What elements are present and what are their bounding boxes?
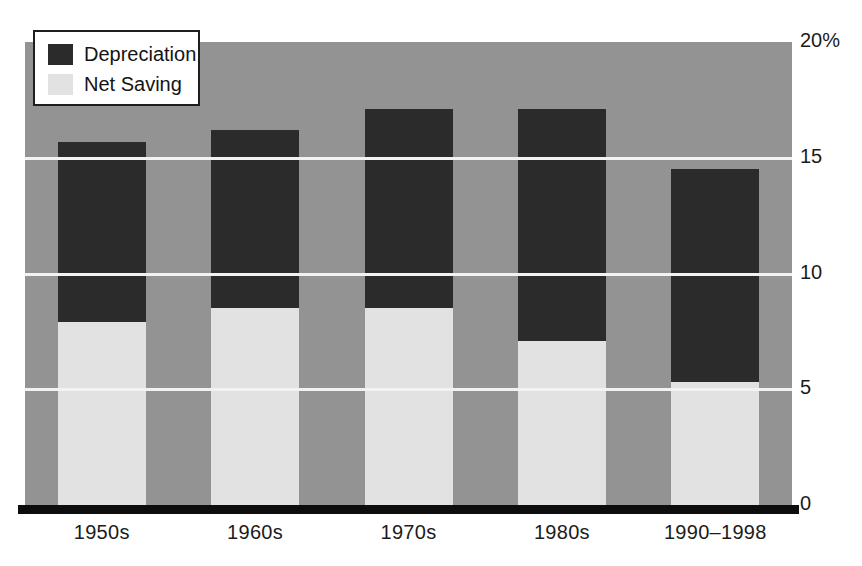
bar-group bbox=[58, 142, 146, 505]
legend-item-depreciation: Depreciation bbox=[48, 39, 198, 69]
bar-segment-net-saving bbox=[365, 308, 453, 505]
bar-group bbox=[211, 130, 299, 505]
bar-segment-depreciation bbox=[518, 109, 606, 341]
x-tick-label: 1950s bbox=[22, 521, 182, 544]
x-tick-label: 1970s bbox=[329, 521, 489, 544]
bar-group bbox=[671, 169, 759, 505]
chart-legend: Depreciation Net Saving bbox=[33, 30, 200, 106]
y-tick-label: 0 bbox=[800, 492, 811, 515]
gridline-15 bbox=[25, 157, 792, 160]
bar-segment-net-saving bbox=[518, 341, 606, 505]
x-axis-tick-labels: 1950s1960s1970s1980s1990–1998 bbox=[25, 521, 792, 557]
bar-segment-depreciation bbox=[58, 142, 146, 323]
y-tick-label: 10 bbox=[800, 261, 822, 284]
bar-group bbox=[518, 109, 606, 505]
plot-area bbox=[25, 42, 792, 505]
legend-label-net-saving: Net Saving bbox=[84, 73, 182, 96]
bar-segment-net-saving bbox=[211, 308, 299, 505]
bar-segment-depreciation bbox=[671, 169, 759, 382]
y-axis-tick-labels: 20%151050 bbox=[800, 0, 862, 566]
x-axis-line bbox=[18, 505, 799, 514]
depreciation-swatch-icon bbox=[48, 44, 73, 65]
y-tick-label: 5 bbox=[800, 376, 811, 399]
x-tick-label: 1960s bbox=[175, 521, 335, 544]
x-tick-label: 1990–1998 bbox=[635, 521, 795, 544]
bar-segment-depreciation bbox=[365, 109, 453, 308]
net-saving-swatch-icon bbox=[48, 74, 73, 95]
gridline-5 bbox=[25, 388, 792, 391]
legend-item-net-saving: Net Saving bbox=[48, 69, 198, 99]
stacked-bar-chart: 1950s1960s1970s1980s1990–1998 20%151050 … bbox=[0, 0, 862, 566]
y-tick-label: 15 bbox=[800, 145, 822, 168]
bar-group bbox=[365, 109, 453, 505]
x-tick-label: 1980s bbox=[482, 521, 642, 544]
gridline-10 bbox=[25, 273, 792, 276]
bar-segment-net-saving bbox=[671, 382, 759, 505]
y-tick-label: 20% bbox=[800, 29, 840, 52]
bar-segment-net-saving bbox=[58, 322, 146, 505]
legend-label-depreciation: Depreciation bbox=[84, 43, 196, 66]
